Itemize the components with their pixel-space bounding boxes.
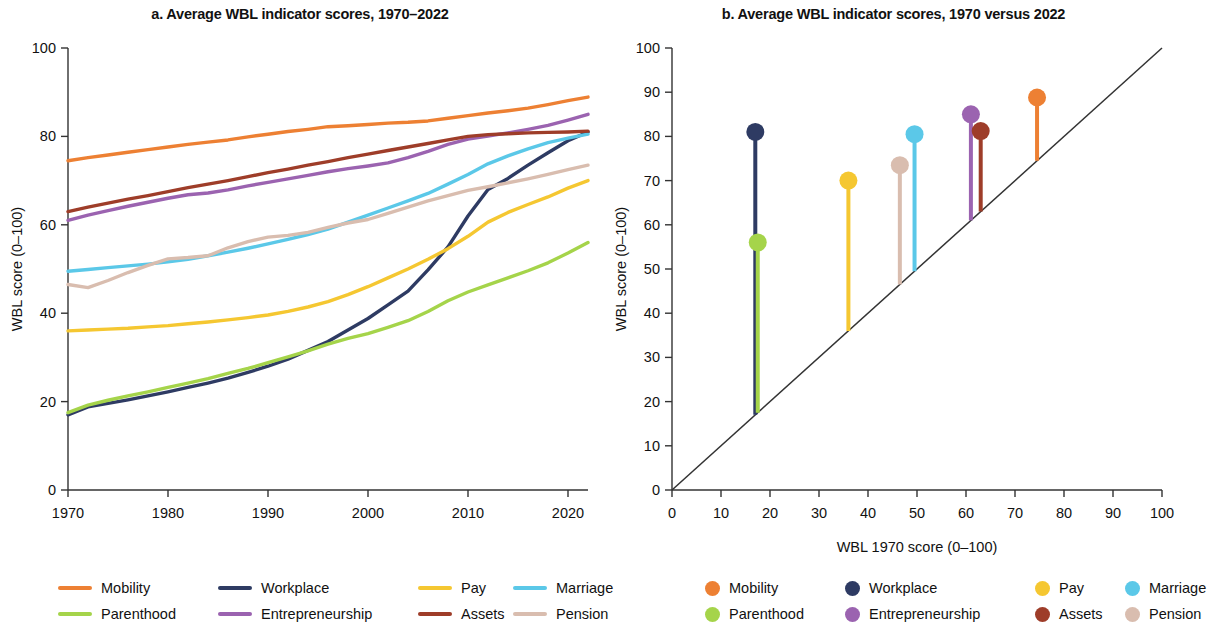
panel-a-y-axis-label: WBL score (0–100) — [9, 207, 25, 331]
panel-a-x-tick-label: 1970 — [52, 505, 84, 521]
legend-dot-swatch-icon — [845, 607, 860, 622]
legend-line-swatch-icon — [218, 586, 252, 590]
legend-dot-swatch-icon — [1035, 607, 1050, 622]
legend-item-label: Entrepreneurship — [261, 601, 372, 623]
panel-a-legend: MobilityWorkplacePayMarriageParenthoodEn… — [58, 575, 633, 623]
lollipop-marker-assets[interactable] — [972, 122, 990, 140]
legend-row: ParenthoodEntrepreneurshipAssetsPension — [705, 601, 1211, 623]
legend-item-mobility[interactable]: Mobility — [58, 575, 218, 601]
legend-line-swatch-icon — [418, 612, 452, 616]
legend-line-swatch-icon — [513, 612, 547, 616]
panel-a-y-tick-label: 0 — [48, 482, 56, 498]
legend-row: MobilityWorkplacePayMarriage — [58, 575, 633, 601]
legend-item-label: Mobility — [101, 575, 150, 601]
panel-a-x-tick-label: 2000 — [352, 505, 384, 521]
panel-b-x-tick-label: 90 — [1105, 505, 1121, 521]
legend-item-marriage[interactable]: Marriage — [1125, 575, 1211, 601]
lollipop-marker-mobility[interactable] — [1028, 89, 1046, 107]
legend-item-parenthood[interactable]: Parenthood — [705, 601, 845, 623]
legend-item-label: Parenthood — [101, 601, 176, 623]
legend-item-label: Assets — [461, 601, 505, 623]
legend-item-assets[interactable]: Assets — [418, 601, 513, 623]
legend-dot-swatch-icon — [1125, 581, 1140, 596]
panel-a-x-tick-label: 1990 — [252, 505, 284, 521]
panel-b: b. Average WBL indicator scores, 1970 ve… — [600, 0, 1187, 623]
legend-item-label: Parenthood — [729, 601, 804, 623]
legend-item-assets[interactable]: Assets — [1035, 601, 1125, 623]
panel-b-x-tick-label: 80 — [1056, 505, 1072, 521]
panel-b-x-tick-label: 60 — [958, 505, 974, 521]
panel-b-x-tick-label: 10 — [713, 505, 729, 521]
panel-a-y-tick-label: 20 — [40, 394, 56, 410]
legend-item-workplace[interactable]: Workplace — [845, 575, 1035, 601]
legend-dot-swatch-icon — [705, 607, 720, 622]
legend-item-label: Pay — [461, 575, 486, 601]
legend-item-pension[interactable]: Pension — [1125, 601, 1211, 623]
legend-item-label: Mobility — [729, 575, 778, 601]
legend-line-swatch-icon — [58, 612, 92, 616]
panel-b-y-tick-label: 80 — [644, 128, 660, 144]
panel-b-y-tick-label: 30 — [644, 349, 660, 365]
lollipop-marker-workplace[interactable] — [746, 123, 764, 141]
panel-b-y-axis-label: WBL score (0–100) — [613, 207, 629, 331]
series-line-entrepreneurship — [68, 114, 588, 220]
legend-item-entrepreneurship[interactable]: Entrepreneurship — [218, 601, 418, 623]
legend-item-parenthood[interactable]: Parenthood — [58, 601, 218, 623]
lollipop-marker-parenthood[interactable] — [749, 233, 767, 251]
panel-b-y-tick-label: 60 — [644, 217, 660, 233]
legend-dot-swatch-icon — [1125, 607, 1140, 622]
panel-b-x-tick-label: 20 — [762, 505, 778, 521]
legend-item-label: Pay — [1059, 575, 1084, 601]
panel-a: a. Average WBL indicator scores, 1970–20… — [0, 0, 600, 623]
legend-line-swatch-icon — [218, 612, 252, 616]
panel-a-y-tick-label: 40 — [40, 305, 56, 321]
panel-b-y-tick-label: 70 — [644, 173, 660, 189]
panel-a-y-tick-label: 100 — [32, 40, 56, 56]
legend-item-pay[interactable]: Pay — [1035, 575, 1125, 601]
panel-b-x-tick-label: 50 — [909, 505, 925, 521]
panel-a-x-tick-label: 2020 — [552, 505, 584, 521]
panel-b-x-tick-label: 30 — [811, 505, 827, 521]
panel-a-x-tick-label: 1980 — [152, 505, 184, 521]
legend-item-label: Assets — [1059, 601, 1103, 623]
legend-item-label: Workplace — [869, 575, 937, 601]
panel-b-y-tick-label: 100 — [636, 40, 660, 56]
legend-item-mobility[interactable]: Mobility — [705, 575, 845, 601]
legend-dot-swatch-icon — [1035, 581, 1050, 596]
panel-b-y-tick-label: 90 — [644, 84, 660, 100]
diagonal-reference-line — [672, 48, 1162, 490]
panel-b-x-tick-label: 100 — [1150, 505, 1174, 521]
panel-b-plot: 0102030405060708090100010203040506070809… — [600, 0, 1187, 565]
legend-item-workplace[interactable]: Workplace — [218, 575, 418, 601]
lollipop-marker-pension[interactable] — [891, 156, 909, 174]
legend-item-label: Marriage — [1149, 575, 1206, 601]
legend-item-label: Entrepreneurship — [869, 601, 980, 623]
panel-b-x-tick-label: 40 — [860, 505, 876, 521]
legend-item-label: Workplace — [261, 575, 329, 601]
legend-dot-swatch-icon — [845, 581, 860, 596]
panel-a-plot: 020406080100197019801990200020102020WBL … — [0, 0, 600, 560]
series-line-workplace — [68, 132, 588, 415]
panel-b-y-tick-label: 20 — [644, 394, 660, 410]
panel-b-legend: MobilityWorkplacePayMarriageParenthoodEn… — [705, 575, 1211, 623]
panel-a-x-tick-label: 2010 — [452, 505, 484, 521]
panel-b-y-tick-label: 40 — [644, 305, 660, 321]
series-line-mobility — [68, 97, 588, 161]
legend-line-swatch-icon — [513, 586, 547, 590]
legend-item-pay[interactable]: Pay — [418, 575, 513, 601]
panel-b-y-tick-label: 50 — [644, 261, 660, 277]
panel-b-x-tick-label: 70 — [1007, 505, 1023, 521]
legend-line-swatch-icon — [58, 586, 92, 590]
lollipop-marker-entrepreneurship[interactable] — [962, 105, 980, 123]
legend-row: MobilityWorkplacePayMarriage — [705, 575, 1211, 601]
panel-a-y-tick-label: 80 — [40, 128, 56, 144]
panel-a-y-tick-label: 60 — [40, 217, 56, 233]
legend-item-label: Pension — [1149, 601, 1201, 623]
legend-line-swatch-icon — [418, 586, 452, 590]
lollipop-marker-pay[interactable] — [839, 172, 857, 190]
panel-b-x-tick-label: 0 — [668, 505, 676, 521]
legend-dot-swatch-icon — [705, 581, 720, 596]
lollipop-marker-marriage[interactable] — [906, 125, 924, 143]
legend-item-entrepreneurship[interactable]: Entrepreneurship — [845, 601, 1035, 623]
